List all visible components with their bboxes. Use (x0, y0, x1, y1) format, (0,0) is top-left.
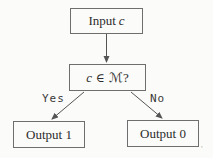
input-variable: c (116, 13, 125, 29)
edge-label-yes: Yes (42, 92, 65, 105)
input-label: Input (88, 13, 115, 29)
edge-label-no: No (150, 92, 165, 105)
output0-label: Output 0 (140, 126, 186, 142)
node-output-1: Output 1 (13, 121, 85, 148)
node-decision: c∈ℳ? (69, 64, 146, 91)
scan-artifact-mark: ' (201, 144, 203, 154)
output1-label: Output 1 (26, 127, 72, 143)
set-symbol: ℳ (109, 70, 123, 85)
element-of-symbol: ∈ (92, 71, 109, 85)
question-mark: ? (123, 70, 129, 86)
node-input: Inputc (70, 8, 143, 34)
flowchart-canvas: Inputc c∈ℳ? Yes No Output 1 Output 0 ' (0, 0, 213, 158)
node-output-0: Output 0 (127, 120, 199, 147)
